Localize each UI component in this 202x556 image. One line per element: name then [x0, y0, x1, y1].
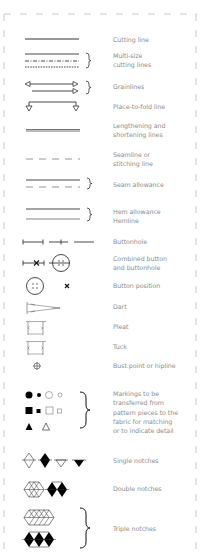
label-tuck: Tuck [113, 342, 193, 351]
place-to-fold-line-icon [16, 100, 106, 114]
label-cutting-line: Cutting line [113, 35, 193, 44]
label-seamline: Seamline or stitching line [113, 150, 193, 169]
multi-size-cutting-lines-icon [16, 52, 106, 72]
combined-button-buttonhole-icon [16, 254, 106, 274]
label-markings: Markings to be transferred from pattern … [113, 389, 193, 435]
buttonhole-icon [16, 238, 106, 246]
seam-allowance-icon [16, 178, 106, 192]
label-bust-point: Bust point or hipline [113, 361, 193, 370]
hem-allowance-icon [16, 208, 106, 226]
label-single-notches: Single notches [113, 456, 193, 465]
bust-point-icon [16, 361, 106, 371]
lengthening-shortening-lines-icon [16, 128, 106, 134]
dart-icon [16, 300, 106, 316]
grainlines-icon [16, 80, 106, 96]
button-position-icon [16, 276, 106, 296]
label-dart: Dart [113, 302, 193, 311]
label-combined-button: Combined button and buttonhole [113, 254, 193, 273]
label-place-to-fold: Place-to-fold line [113, 102, 193, 111]
label-triple-notches: Triple notches [113, 524, 193, 533]
triple-notches-icon [16, 508, 106, 554]
cutting-line-icon [16, 37, 106, 41]
label-seam-allowance: Seam allowance [113, 180, 193, 189]
seamline-icon [16, 157, 106, 161]
tuck-icon [16, 340, 106, 356]
label-lengthening: Lengthening and shortening lines [113, 121, 193, 140]
pleat-icon [16, 320, 106, 336]
label-button-position: Button position [113, 281, 193, 290]
single-notches-icon [16, 451, 106, 471]
label-pleat: Pleat [113, 322, 193, 331]
label-hem-allowance: Hem allowance Hemline [113, 207, 193, 226]
label-double-notches: Double notches [113, 484, 193, 493]
double-notches-icon [16, 480, 106, 500]
label-multi-size: Multi-size cutting lines [113, 51, 193, 70]
markings-icon [16, 388, 106, 436]
label-buttonhole: Buttonhole [113, 237, 193, 246]
label-grainlines: Grainlines [113, 82, 193, 91]
